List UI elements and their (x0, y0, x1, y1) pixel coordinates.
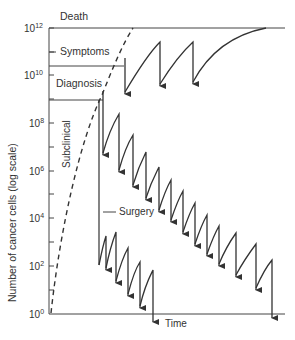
y-axis-label: Number of cancer cells (log scale) (6, 143, 18, 302)
svg-text:102: 102 (29, 260, 44, 272)
chart: 1012 1010 108 106 104 102 100 Number of … (0, 0, 295, 340)
svg-text:104: 104 (29, 212, 44, 224)
subclinical-label: Subclinical (61, 120, 72, 168)
svg-text:1010: 1010 (24, 69, 43, 81)
x-axis-label: Time (165, 318, 187, 329)
ytick-base: 10 (24, 23, 36, 34)
y-tick-labels: 1012 1010 108 106 104 102 100 (24, 22, 44, 320)
series-surgery-chemo (99, 232, 153, 322)
svg-text:108: 108 (29, 117, 44, 129)
untreated-growth-curve (51, 28, 133, 313)
svg-text:100: 100 (29, 308, 44, 320)
diagnosis-label: Diagnosis (56, 77, 102, 89)
surgery-label: Surgery (119, 206, 154, 217)
series-symptomatic (125, 28, 266, 94)
svg-text:1012: 1012 (24, 22, 43, 34)
svg-text:106: 106 (29, 165, 44, 177)
death-label: Death (60, 10, 88, 22)
axes (49, 28, 285, 314)
symptoms-label: Symptoms (60, 45, 110, 57)
